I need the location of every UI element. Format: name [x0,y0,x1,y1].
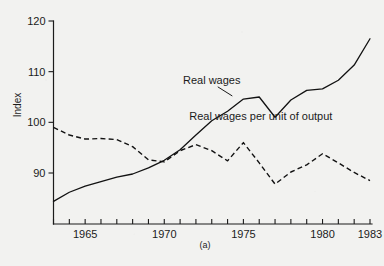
y-tick-label: 90 [33,167,45,179]
series-label-1: Real wages [183,74,241,86]
y-tick-label: 100 [27,116,45,128]
line-chart: 90100110120 19651970197519801983 Real wa… [0,0,384,266]
x-tick-label: 1970 [152,228,176,240]
x-tick-label: 1980 [310,228,334,240]
x-tick-label: 1975 [231,228,255,240]
series-label-2: Real wages per unit of output [189,110,332,122]
x-tick-label: 1983 [358,228,382,240]
panel-caption: (a) [200,240,211,250]
chart-figure: 90100110120 19651970197519801983 Real wa… [0,0,384,266]
y-tick-label: 110 [28,66,46,78]
x-tick-label: 1965 [73,228,97,240]
y-tick-label: 120 [27,15,45,27]
y-axis-title: Index [12,93,23,117]
plot-background [0,0,384,266]
